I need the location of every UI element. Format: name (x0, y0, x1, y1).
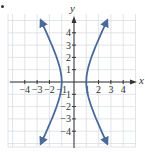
y-tick-label: −1 (60, 89, 71, 100)
x-tick-label: −4 (19, 84, 30, 95)
axes (10, 16, 137, 148)
x-tick-label: −2 (44, 84, 55, 95)
y-tick-label: 4 (66, 27, 71, 38)
y-tick-label: 1 (66, 64, 71, 75)
y-axis-label: y (69, 2, 75, 14)
x-tick-label: 3 (108, 84, 113, 95)
y-tick-label: 2 (66, 52, 71, 63)
y-axis-arrow-icon (72, 16, 77, 23)
grid (8, 14, 136, 147)
x-axis-arrow-icon (130, 80, 137, 85)
x-tick-label: 4 (121, 84, 126, 95)
hyperbola-graph: −4−3−2−123414321−1−2−3−4 x y (0, 0, 145, 152)
x-tick-label: −3 (32, 84, 43, 95)
y-tick-label: −3 (60, 113, 71, 124)
y-tick-label: 3 (66, 40, 71, 51)
y-tick-label: −2 (60, 101, 71, 112)
x-axis-label: x (138, 74, 144, 86)
y-tick-label: −4 (60, 126, 71, 137)
x-tick-label: 2 (96, 84, 101, 95)
